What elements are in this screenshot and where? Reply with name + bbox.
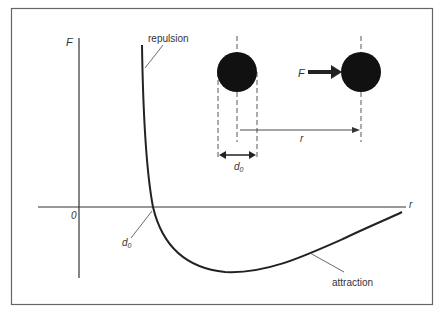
force-distance-diagram: F r 0 repulsion d0 attraction F r d0 <box>0 0 443 314</box>
d0-leader <box>131 211 152 238</box>
particle-2 <box>341 52 381 92</box>
repulsion-leader <box>145 45 163 68</box>
force-arrow-head <box>331 65 342 79</box>
y-axis-label: F <box>66 36 74 48</box>
diameter-label: d0 <box>234 161 244 173</box>
force-label: F <box>298 67 306 79</box>
separation-arrow-head <box>352 127 360 133</box>
particle-1 <box>217 52 257 92</box>
attraction-leader <box>310 253 344 272</box>
diameter-arrow-left-head <box>219 151 226 159</box>
attraction-label: attraction <box>332 277 373 288</box>
diameter-arrow-right-head <box>249 151 256 159</box>
origin-label: 0 <box>71 210 77 221</box>
separation-label: r <box>300 133 304 144</box>
repulsion-label: repulsion <box>148 33 189 44</box>
d0-label: d0 <box>122 237 132 249</box>
particle-inset: F r d0 <box>217 36 381 173</box>
x-axis-label: r <box>409 199 413 210</box>
